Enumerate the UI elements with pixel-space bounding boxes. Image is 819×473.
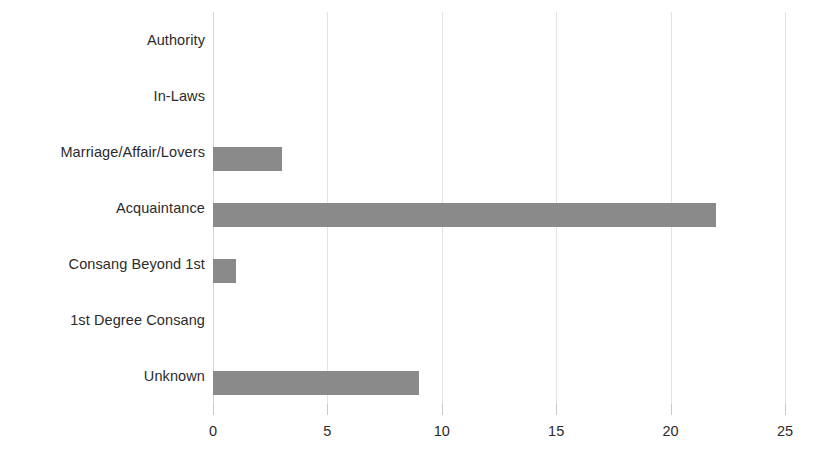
category-label-4: Consang Beyond 1st	[0, 257, 205, 272]
tick-10	[442, 404, 443, 415]
bar-chart: AuthorityIn-LawsMarriage/Affair/LoversAc…	[0, 0, 819, 473]
category-label-3: Acquaintance	[0, 201, 205, 216]
x-tick-label-0: 0	[209, 424, 217, 439]
tick-25	[785, 404, 786, 415]
x-axis-labels: 0510152025	[0, 424, 819, 454]
bar-3	[213, 203, 716, 227]
x-tick-label-10: 10	[434, 424, 450, 439]
category-label-5: 1st Degree Consang	[0, 313, 205, 328]
x-tick-label-5: 5	[323, 424, 331, 439]
category-label-6: Unknown	[0, 369, 205, 384]
x-tick-label-25: 25	[777, 424, 793, 439]
category-label-2: Marriage/Affair/Lovers	[0, 145, 205, 160]
category-label-0: Authority	[0, 33, 205, 48]
x-axis-ticks	[213, 404, 819, 418]
bar-6	[213, 371, 419, 395]
x-tick-label-20: 20	[663, 424, 679, 439]
bar-4	[213, 259, 236, 283]
bar-series	[213, 0, 819, 473]
tick-15	[556, 404, 557, 415]
tick-5	[327, 404, 328, 415]
tick-20	[671, 404, 672, 415]
category-label-1: In-Laws	[0, 89, 205, 104]
tick-0	[213, 404, 214, 415]
bar-2	[213, 147, 282, 171]
category-axis: AuthorityIn-LawsMarriage/Affair/LoversAc…	[0, 0, 205, 473]
x-tick-label-15: 15	[548, 424, 564, 439]
